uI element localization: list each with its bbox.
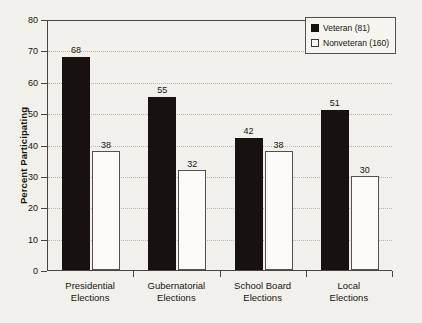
x-category-label-line: Elections [306,292,392,304]
bar-value-label: 32 [187,159,197,169]
x-category-label-line: Gubernatorial [133,280,219,292]
bar-value-label: 55 [157,85,167,95]
bar-nonveteran: 38 [92,151,120,270]
bar-veteran: 68 [62,57,90,270]
category-separator-tick [133,271,134,277]
bar-value-label: 38 [101,140,111,150]
y-tick-label: 50 [10,109,38,119]
x-category-label-line: Local [306,280,392,292]
x-category-label: PresidentialElections [47,280,133,303]
category-separator-tick [306,271,307,277]
y-tick-label: 70 [10,46,38,56]
legend-swatch-veteran-icon [311,24,319,32]
bar-value-label: 51 [330,98,340,108]
bar-value-label: 30 [360,165,370,175]
bar-veteran: 55 [148,97,176,270]
bar-chart-figure: Percent Participating 80706050403020100 … [0,0,422,323]
x-category-label: LocalElections [306,280,392,303]
x-category-label-line: Elections [133,292,219,304]
plot-inner: 6838553242385130 [48,20,392,270]
y-tick-label: 20 [10,203,38,213]
x-category-label: School BoardElections [220,280,306,303]
category-separator-tick [392,271,393,277]
chart-legend: Veteran (81)Nonveteran (160) [305,17,396,54]
y-tick-label: 40 [10,141,38,151]
x-category-label-line: School Board [220,280,306,292]
gridline [48,83,392,84]
x-category-label-line: Elections [47,292,133,304]
bar-value-label: 42 [244,126,254,136]
legend-label: Veteran (81) [323,23,370,33]
y-tick-label: 0 [10,266,38,276]
x-category-label-line: Elections [220,292,306,304]
legend-swatch-nonveteran-icon [311,39,319,47]
bar-nonveteran: 38 [265,151,293,270]
legend-label: Nonveteran (160) [323,38,389,48]
category-separator-tick [220,271,221,277]
y-tick-mark [41,271,47,272]
x-category-label-line: Presidential [47,280,133,292]
y-tick-label: 60 [10,78,38,88]
x-category-label: GubernatorialElections [133,280,219,303]
bar-nonveteran: 32 [178,170,206,270]
bar-veteran: 51 [321,110,349,270]
y-tick-label: 80 [10,15,38,25]
bar-veteran: 42 [235,138,263,270]
bar-value-label: 38 [274,140,284,150]
bar-nonveteran: 30 [351,176,379,270]
bar-value-label: 68 [71,45,81,55]
legend-item: Veteran (81) [311,22,389,34]
plot-area: 6838553242385130 [47,20,392,271]
legend-item: Nonveteran (160) [311,37,389,49]
y-tick-label: 10 [10,235,38,245]
y-tick-label: 30 [10,172,38,182]
